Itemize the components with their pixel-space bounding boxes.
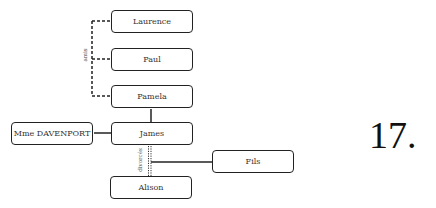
node-alison[interactable]: Alison (110, 176, 192, 199)
divorced-link (149, 146, 152, 176)
friends-label: amis (82, 48, 88, 61)
connector-lines (0, 0, 436, 208)
divorced-label: divorcés (137, 148, 143, 172)
node-pamela[interactable]: Pamela (111, 85, 193, 108)
node-james[interactable]: James (111, 122, 193, 145)
node-paul[interactable]: Paul (111, 48, 193, 71)
node-mme-davenport[interactable]: Mme DAVENPORT (11, 122, 93, 145)
node-fils[interactable]: Fils (212, 150, 294, 173)
friends-bracket (92, 21, 111, 96)
page-number: 17. (369, 116, 417, 154)
node-laurence[interactable]: Laurence (111, 10, 193, 33)
